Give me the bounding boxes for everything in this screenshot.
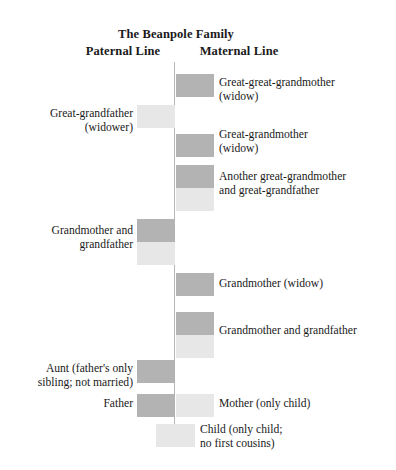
label-great-great-grandmother: Great-great-grandmother (widow) <box>219 76 396 104</box>
label-great-grandmother: Great-grandmother (widow) <box>219 128 396 156</box>
bar-maternal-grandmother-female <box>176 312 214 335</box>
label-maternal-grandparents: Grandmother and grandfather <box>219 324 396 338</box>
label-mother: Mother (only child) <box>219 397 396 411</box>
label-grandmother-widow: Grandmother (widow) <box>219 277 396 291</box>
bar-paternal-grandmother-female <box>137 219 175 242</box>
beanpole-family-diagram: The Beanpole Family Paternal Line Matern… <box>0 0 396 470</box>
label-aunt: Aunt (father's only sibling; not married… <box>0 362 133 390</box>
bar-another-great-grandfather-male <box>176 188 214 211</box>
bar-father-female-side <box>137 394 175 417</box>
label-father: Father <box>0 397 133 411</box>
bar-maternal-grandmother-widow-female <box>176 273 214 296</box>
bar-another-great-grandmother-female <box>176 165 214 188</box>
bar-great-grandmother-female <box>176 134 214 157</box>
bar-maternal-grandfather-male <box>176 335 214 358</box>
label-great-grandfather: Great-grandfather (widower) <box>0 107 133 135</box>
column-header-paternal: Paternal Line <box>76 44 170 59</box>
bar-child-male <box>156 424 195 447</box>
bar-paternal-grandfather-male <box>137 242 175 265</box>
label-another-great-grandparents: Another great-grandmother and great-gran… <box>219 170 396 198</box>
bar-great-great-grandmother-female <box>176 74 214 97</box>
bar-mother-male-side <box>176 394 214 417</box>
label-child: Child (only child; no first cousins) <box>200 423 390 451</box>
bar-great-grandfather-male <box>137 105 175 128</box>
page-title: The Beanpole Family <box>0 27 352 42</box>
bar-aunt-female <box>137 360 175 383</box>
column-header-maternal: Maternal Line <box>190 44 288 59</box>
label-paternal-grandparents: Grandmother and grandfather <box>0 224 133 252</box>
